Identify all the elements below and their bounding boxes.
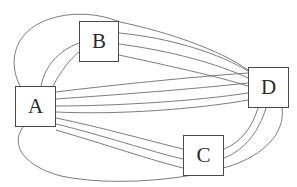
- edge-c-d-2: [224, 108, 266, 158]
- edge-b-d-1: [119, 33, 248, 71]
- edge-a-c-1: [56, 118, 183, 149]
- edge-c-d-1: [224, 108, 258, 149]
- node-d-label: D: [261, 77, 276, 98]
- node-d[interactable]: D: [248, 67, 289, 108]
- node-c-label: C: [196, 145, 210, 166]
- edge-b-d-3: [119, 55, 248, 86]
- edge-a-c-2: [56, 124, 183, 159]
- node-a[interactable]: A: [15, 86, 56, 127]
- edge-a-d-outer-bottom-arc: [18, 108, 282, 181]
- node-b[interactable]: B: [79, 21, 119, 62]
- edge-a-d-1: [56, 73, 248, 92]
- edge-a-c-3: [56, 130, 183, 168]
- node-b-label: B: [92, 31, 106, 52]
- edge-a-d-4: [56, 100, 248, 113]
- node-c[interactable]: C: [183, 135, 224, 176]
- node-a-label: A: [28, 96, 43, 117]
- edge-a-b-1: [41, 43, 79, 86]
- edge-b-d-outer-continuation: [120, 22, 248, 70]
- graph-diagram: A B C D: [0, 0, 297, 187]
